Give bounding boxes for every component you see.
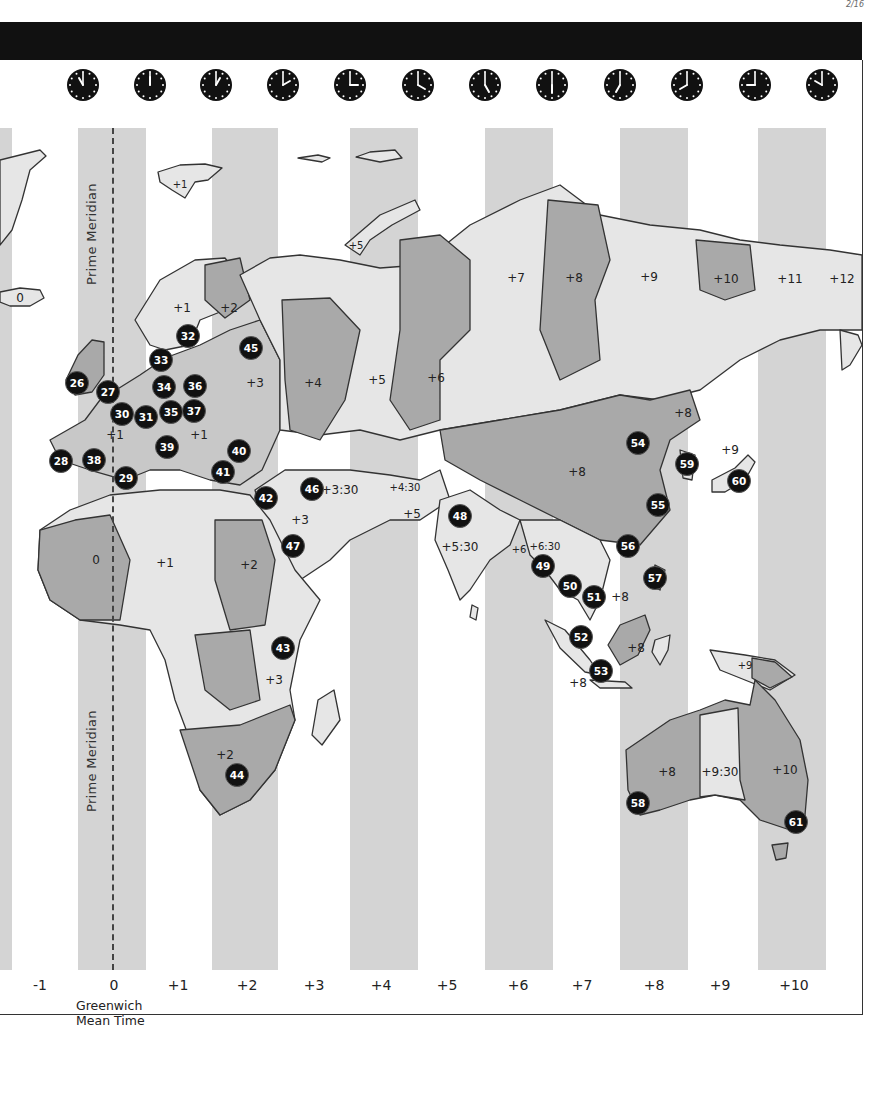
axis-tick-label: +8: [644, 977, 665, 993]
city-marker-45: 45: [239, 336, 263, 360]
city-marker-61: 61: [784, 810, 808, 834]
zone-offset-label: +9: [721, 443, 739, 457]
landmass-madagascar: [312, 690, 340, 745]
gmt-caption-line2: Mean Time: [76, 1013, 145, 1028]
zone-offset-label: +10: [772, 763, 797, 777]
city-marker-27: 27: [96, 380, 120, 404]
zone-patch-africa-0: [38, 515, 130, 620]
zone-offset-label: +8: [627, 641, 645, 655]
zone-offset-label: +3: [265, 673, 283, 687]
zone-offset-label: +1: [106, 428, 124, 442]
zone-offset-label: +8: [568, 465, 586, 479]
zone-offset-label: 0: [92, 553, 100, 567]
city-marker-52: 52: [569, 625, 593, 649]
prime-meridian-label-bottom: Prime Meridian: [84, 710, 99, 812]
zone-offset-label: +4: [304, 376, 322, 390]
city-marker-56: 56: [616, 534, 640, 558]
zone-offset-label: +8: [611, 590, 629, 604]
city-marker-34: 34: [152, 375, 176, 399]
zone-offset-label: +8: [569, 676, 587, 690]
zone-offset-label: 0: [16, 291, 24, 305]
zone-offset-label: +9:30: [701, 765, 738, 779]
city-marker-30: 30: [110, 402, 134, 426]
zone-offset-label: +6: [427, 371, 445, 385]
zone-offset-label: +2: [240, 558, 258, 572]
zone-offset-label: +1: [190, 428, 208, 442]
axis-tick-label: +10: [779, 977, 809, 993]
zone-offset-label: +8: [674, 406, 692, 420]
zone-offset-label: +5: [349, 240, 364, 251]
axis-tick-label: +6: [508, 977, 529, 993]
prime-meridian-line: [112, 128, 114, 970]
zone-offset-label: +7: [507, 271, 525, 285]
city-marker-44: 44: [225, 763, 249, 787]
city-marker-48: 48: [448, 504, 472, 528]
city-marker-50: 50: [558, 574, 582, 598]
zone-offset-label: +11: [777, 272, 802, 286]
city-marker-35: 35: [159, 400, 183, 424]
axis-tick-label: 0: [110, 977, 119, 993]
axis-tick-label: +2: [237, 977, 258, 993]
zone-offset-label: +1: [173, 179, 188, 190]
axis-tick-label: +1: [168, 977, 189, 993]
zone-offset-label: +9: [738, 660, 753, 671]
zone-offset-label: +3: [291, 513, 309, 527]
landmass-borneo: [608, 615, 650, 665]
axis-tick-label: +7: [572, 977, 593, 993]
zone-patch-plus930: [700, 708, 745, 800]
city-marker-51: 51: [582, 585, 606, 609]
city-marker-57: 57: [643, 566, 667, 590]
axis-tick-label: +3: [304, 977, 325, 993]
axis-tick-label: +5: [437, 977, 458, 993]
city-marker-53: 53: [589, 659, 613, 683]
prime-meridian-label-top: Prime Meridian: [84, 183, 99, 285]
city-marker-54: 54: [626, 431, 650, 455]
axis-tick-label: -1: [33, 977, 47, 993]
zone-offset-label: +8: [565, 271, 583, 285]
city-marker-36: 36: [183, 374, 207, 398]
city-marker-37: 37: [182, 399, 206, 423]
zone-offset-label: +3:30: [321, 483, 358, 497]
city-marker-42: 42: [254, 486, 278, 510]
zone-offset-label: +9: [640, 270, 658, 284]
city-marker-33: 33: [149, 348, 173, 372]
zone-patch-plus10: [696, 240, 755, 300]
world-map: [0, 0, 882, 1114]
zone-offset-label: +8: [658, 765, 676, 779]
gmt-caption-line1: Greenwich: [76, 998, 145, 1013]
zone-offset-label: +6: [512, 544, 527, 555]
city-marker-60: 60: [727, 469, 751, 493]
city-marker-40: 40: [227, 439, 251, 463]
zone-offset-label: +4:30: [390, 482, 421, 493]
zone-offset-label: +5: [403, 507, 421, 521]
city-marker-58: 58: [626, 791, 650, 815]
landmass-svalbard: [158, 164, 222, 198]
city-marker-28: 28: [49, 449, 73, 473]
city-marker-39: 39: [155, 435, 179, 459]
axis-tick-label: +9: [710, 977, 731, 993]
city-marker-46: 46: [300, 477, 324, 501]
zone-offset-label: +5: [368, 373, 386, 387]
city-marker-31: 31: [134, 405, 158, 429]
landmass-greenland: [0, 150, 46, 245]
zone-offset-label: +12: [829, 272, 854, 286]
city-marker-29: 29: [114, 466, 138, 490]
city-marker-41: 41: [211, 460, 235, 484]
zone-offset-label: +5:30: [441, 540, 478, 554]
city-marker-47: 47: [281, 534, 305, 558]
city-marker-32: 32: [176, 324, 200, 348]
city-marker-43: 43: [271, 636, 295, 660]
axis-tick-label: +4: [371, 977, 392, 993]
city-marker-49: 49: [531, 554, 555, 578]
city-marker-59: 59: [675, 452, 699, 476]
zone-offset-label: +2: [216, 748, 234, 762]
zone-offset-label: +1: [173, 301, 191, 315]
city-marker-26: 26: [65, 371, 89, 395]
zone-offset-label: +10: [713, 272, 738, 286]
city-marker-55: 55: [646, 493, 670, 517]
zone-offset-label: +3: [246, 376, 264, 390]
zone-offset-label: +6:30: [530, 541, 561, 552]
gmt-caption: Greenwich Mean Time: [76, 998, 145, 1028]
city-marker-38: 38: [82, 448, 106, 472]
landmass-kamchatka: [840, 330, 862, 370]
